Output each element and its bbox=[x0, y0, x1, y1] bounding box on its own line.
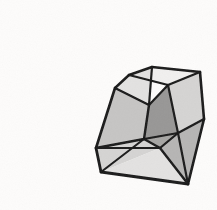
figure-canvas bbox=[0, 0, 217, 210]
polyhedron-figure bbox=[0, 0, 217, 210]
paper-grain-overlay bbox=[0, 0, 217, 210]
